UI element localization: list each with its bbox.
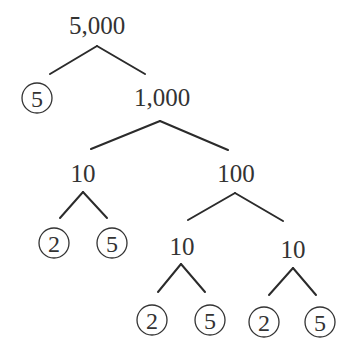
edge-5000-to-1000 bbox=[97, 46, 145, 74]
edge-10c-to-5 bbox=[293, 268, 316, 295]
edge-1000-to-10 bbox=[91, 121, 160, 149]
prime-label: 5 bbox=[314, 310, 326, 336]
prime-label: 5 bbox=[106, 231, 118, 257]
edge-10c-to-2 bbox=[269, 268, 293, 295]
prime-node-5-left: 5 bbox=[97, 228, 127, 258]
prime-node-5-bottom-b: 5 bbox=[305, 307, 335, 337]
prime-label: 5 bbox=[204, 308, 216, 334]
edge-5000-to-5 bbox=[50, 46, 97, 74]
prime-node-2-bottom-b: 2 bbox=[249, 307, 279, 337]
edge-1000-to-100 bbox=[160, 121, 228, 150]
prime-label: 2 bbox=[48, 231, 60, 257]
prime-label: 2 bbox=[258, 310, 270, 336]
node-10-mid: 10 bbox=[170, 233, 195, 260]
prime-label: 2 bbox=[146, 308, 158, 334]
edge-100-to-10c bbox=[235, 193, 283, 221]
factor-tree-diagram: 5,000 1,000 10 100 10 10 5 2 5 2 5 2 bbox=[0, 0, 351, 353]
prime-node-5-bottom-a: 5 bbox=[195, 305, 225, 335]
node-10-left: 10 bbox=[71, 160, 96, 187]
edge-10b-to-5 bbox=[181, 264, 205, 292]
prime-node-2-bottom-a: 2 bbox=[137, 305, 167, 335]
node-100: 100 bbox=[217, 160, 255, 187]
edge-100-to-10b bbox=[188, 193, 235, 220]
node-1000: 1,000 bbox=[134, 84, 190, 111]
node-5000: 5,000 bbox=[69, 12, 125, 39]
edge-10a-to-5 bbox=[83, 192, 107, 218]
prime-node-5-top: 5 bbox=[22, 83, 52, 113]
prime-nodes: 5 2 5 2 5 2 5 bbox=[22, 83, 335, 337]
prime-node-2-left: 2 bbox=[39, 228, 69, 258]
edge-10b-to-2 bbox=[158, 264, 181, 292]
node-10-right: 10 bbox=[281, 236, 306, 263]
edge-10a-to-2 bbox=[60, 192, 83, 218]
prime-label: 5 bbox=[31, 86, 43, 112]
